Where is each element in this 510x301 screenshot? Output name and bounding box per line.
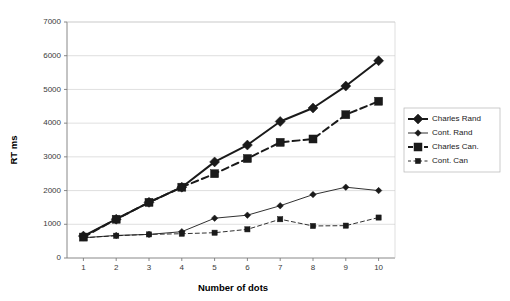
data-point-marker [342,111,350,119]
data-point-marker [375,187,382,194]
data-point-marker [376,215,381,220]
x-tick-label: 9 [344,263,349,272]
y-tick-label: 4000 [43,118,61,127]
data-point-marker [310,223,315,228]
line-chart: 01000200030004000500060007000 1234567891… [0,0,510,301]
series-1 [78,56,383,241]
series-3 [79,97,382,241]
data-point-marker [343,223,348,228]
y-tick-label: 1000 [43,219,61,228]
chart-container: 01000200030004000500060007000 1234567891… [0,0,510,301]
data-point-marker [244,212,251,219]
data-point-marker [375,97,383,105]
legend-label: Cont. Can [432,156,468,165]
data-point-marker [145,198,153,206]
y-tick-label: 0 [57,253,62,262]
x-tick-label: 4 [180,263,185,272]
x-axis-tick-labels: 12345678910 [81,263,383,272]
legend-item-3[interactable]: Charles Can. [408,142,479,151]
data-point-marker [112,215,120,223]
y-tick-label: 7000 [43,17,61,26]
data-point-marker [415,158,420,163]
y-tick-label: 6000 [43,51,61,60]
x-tick-label: 10 [374,263,383,272]
data-point-marker [81,235,86,240]
legend-label: Cont. Rand [432,128,472,137]
data-point-marker [310,191,317,198]
series-line [83,61,378,236]
data-point-marker [179,231,184,236]
data-point-marker [178,183,186,191]
y-axis-title: RT ms [8,135,19,164]
series-2 [80,184,382,241]
x-tick-label: 8 [311,263,316,272]
data-point-marker [211,170,219,178]
y-tick-label: 2000 [43,186,61,195]
legend-label: Charles Can. [432,142,479,151]
x-tick-label: 5 [212,263,217,272]
y-axis-tick-labels: 01000200030004000500060007000 [43,17,61,262]
series-4 [81,215,381,240]
x-tick-label: 7 [278,263,283,272]
data-point-marker [278,217,283,222]
x-tick-label: 3 [147,263,152,272]
data-point-marker [343,184,350,191]
data-point-marker [276,138,284,146]
data-series-group [78,56,383,241]
x-tick-label: 6 [245,263,250,272]
y-tick-label: 5000 [43,85,61,94]
data-point-marker [277,202,284,209]
data-point-marker [146,232,151,237]
data-point-marker [245,227,250,232]
legend-item-1[interactable]: Charles Rand [408,114,481,124]
x-tick-label: 1 [81,263,86,272]
data-point-marker [309,135,317,143]
data-point-marker [243,155,251,163]
data-point-marker [211,215,218,222]
x-axis-title: Number of dots [198,282,268,293]
y-tick-label: 3000 [43,152,61,161]
gridlines [67,22,395,224]
data-point-marker [114,233,119,238]
data-point-marker [414,143,422,151]
chart-legend: Charles RandCont. RandCharles Can.Cont. … [404,108,500,172]
x-tick-label: 2 [114,263,119,272]
data-point-marker [212,230,217,235]
legend-label: Charles Rand [432,114,481,123]
